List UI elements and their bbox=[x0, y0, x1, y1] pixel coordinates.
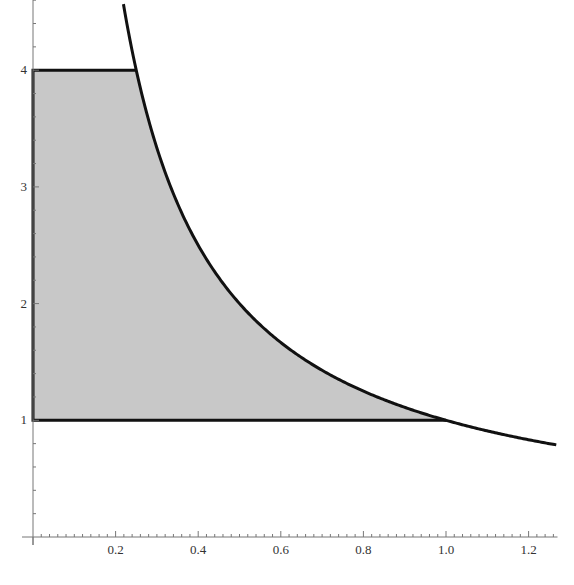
x-tick-label: 0.2 bbox=[107, 542, 123, 557]
chart-plot: 0.20.40.60.81.01.2 1234 bbox=[0, 0, 574, 585]
shaded-region bbox=[33, 70, 446, 420]
x-tick-label: 0.4 bbox=[190, 542, 207, 557]
y-tick-label: 2 bbox=[21, 296, 28, 311]
x-tick-label: 1.2 bbox=[520, 542, 536, 557]
x-tick-label: 0.8 bbox=[355, 542, 371, 557]
y-tick-label: 3 bbox=[21, 179, 28, 194]
y-tick-label: 1 bbox=[21, 412, 28, 427]
y-tick-label: 4 bbox=[21, 62, 28, 77]
x-axis: 0.20.40.60.81.01.2 bbox=[22, 531, 558, 557]
x-tick-label: 1.0 bbox=[438, 542, 454, 557]
x-tick-label: 0.6 bbox=[273, 542, 290, 557]
shaded-area bbox=[33, 70, 446, 420]
